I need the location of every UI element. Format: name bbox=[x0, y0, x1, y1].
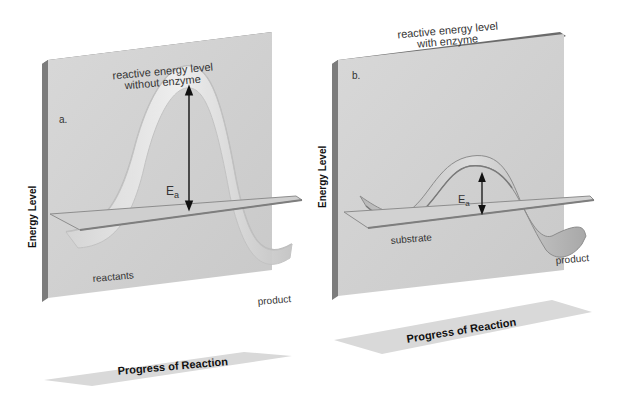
panel-b: Ea b. reactive energy level with enzyme … bbox=[317, 20, 594, 354]
panel-a-y-axis-label: Energy Level bbox=[27, 186, 38, 248]
panel-b-product-label: product bbox=[555, 252, 589, 266]
panel-a-letter: a. bbox=[59, 114, 67, 125]
panel-b-letter: b. bbox=[352, 70, 360, 81]
energy-diagram: Ea a. reactive energy level without enzy… bbox=[0, 0, 618, 400]
panel-a: Ea a. reactive energy level without enzy… bbox=[27, 32, 302, 386]
panel-b-side-edge bbox=[332, 60, 338, 300]
panel-a-side-edge bbox=[42, 60, 48, 302]
panel-b-y-axis-label: Energy Level bbox=[317, 146, 328, 208]
panel-a-product-label: product bbox=[257, 293, 291, 307]
